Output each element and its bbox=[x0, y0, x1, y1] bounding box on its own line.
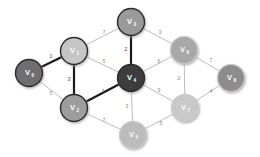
graph-node-v3[interactable]: V3 bbox=[118, 9, 145, 36]
edge-weight-v5-v7: 5 bbox=[160, 120, 163, 126]
graph-node-v6[interactable]: V6 bbox=[171, 37, 198, 64]
node-label-v8: V bbox=[227, 73, 232, 82]
graph-node-v8[interactable]: V8 bbox=[218, 65, 245, 92]
edge-weight-v6-v7: 2 bbox=[178, 75, 181, 81]
node-subscript-v7: 7 bbox=[188, 108, 191, 113]
edge-weight-v6-v8: 7 bbox=[210, 57, 213, 63]
edge-weight-v1-v4: 5 bbox=[103, 58, 106, 64]
graph-node-v7[interactable]: V7 bbox=[172, 95, 199, 122]
edge-weight-v3-v6: 3 bbox=[159, 29, 162, 35]
weighted-graph-diagram: 1573517236395274 V0V1V2V3V4V5V6V7V8 bbox=[0, 0, 260, 157]
node-subscript-v8: 8 bbox=[234, 78, 237, 83]
graph-node-v4[interactable]: V4 bbox=[118, 65, 145, 92]
edge-weight-v4-v7: 9 bbox=[158, 87, 161, 93]
edge-weight-v0-v2: 5 bbox=[50, 90, 53, 96]
node-label-v7: V bbox=[181, 103, 186, 112]
graph-canvas: 1573517236395274 V0V1V2V3V4V5V6V7V8 bbox=[0, 0, 260, 157]
node-label-v3: V bbox=[127, 17, 132, 26]
node-label-v6: V bbox=[180, 45, 185, 54]
node-label-v1: V bbox=[70, 46, 75, 55]
edge-weight-v4-v5: 3 bbox=[126, 103, 129, 109]
nodes-layer: V0V1V2V3V4V5V6V7V8 bbox=[16, 9, 245, 149]
graph-node-v0[interactable]: V0 bbox=[16, 60, 43, 87]
node-subscript-v4: 4 bbox=[134, 78, 137, 83]
graph-node-v2[interactable]: V2 bbox=[61, 95, 88, 122]
node-label-v4: V bbox=[127, 73, 132, 82]
node-subscript-v6: 6 bbox=[187, 50, 190, 55]
edge-weight-v1-v3: 7 bbox=[103, 29, 106, 35]
node-subscript-v2: 2 bbox=[77, 108, 80, 113]
edge-weight-v2-v4: 1 bbox=[102, 88, 105, 94]
graph-node-v1[interactable]: V1 bbox=[61, 38, 88, 65]
node-label-v5: V bbox=[129, 130, 134, 139]
node-subscript-v1: 1 bbox=[77, 51, 80, 56]
edge-weight-v1-v2: 3 bbox=[68, 76, 71, 82]
edge-weight-v2-v5: 7 bbox=[103, 117, 106, 123]
node-label-v2: V bbox=[70, 103, 75, 112]
edge-weight-v4-v6: 6 bbox=[158, 58, 161, 64]
edge-weight-v7-v8: 4 bbox=[210, 88, 213, 94]
graph-node-v5[interactable]: V5 bbox=[120, 122, 147, 149]
node-subscript-v3: 3 bbox=[134, 22, 137, 27]
edge-weight-v3-v4: 2 bbox=[125, 46, 128, 52]
node-subscript-v5: 5 bbox=[136, 135, 139, 140]
node-subscript-v0: 0 bbox=[32, 73, 35, 78]
edge-weight-v0-v1: 1 bbox=[50, 53, 53, 59]
node-label-v0: V bbox=[25, 68, 30, 77]
